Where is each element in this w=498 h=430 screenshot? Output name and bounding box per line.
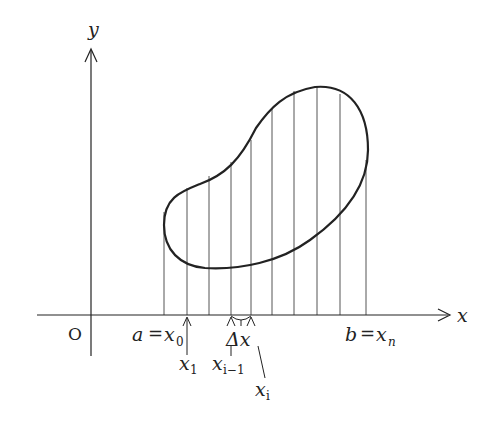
delta-x-brace	[231, 316, 251, 320]
xi-pointer	[258, 346, 265, 378]
label-a-eq: =	[148, 323, 163, 344]
label-xi-sub: i	[266, 389, 270, 403]
origin-label: O	[68, 324, 82, 344]
label-xim1: x	[212, 352, 223, 374]
label-x0-sub: 0	[176, 335, 184, 349]
integral-diagram: x y O a = x 0 x 1 Δx x i−1 x i b = x n	[0, 0, 498, 430]
label-a: a	[132, 323, 143, 345]
label-x1: x	[179, 352, 190, 374]
y-axis-label: y	[87, 18, 99, 40]
label-delta-x: Δx	[225, 328, 251, 350]
label-xn: x	[376, 323, 387, 345]
label-xim1-sub: i−1	[223, 363, 245, 377]
partition-lines	[164, 87, 366, 315]
label-b-eq: =	[360, 323, 375, 344]
label-b: b	[345, 323, 357, 345]
label-x0: x	[164, 323, 175, 345]
x-axis-label: x	[457, 304, 468, 326]
label-x1-sub: 1	[190, 363, 198, 377]
label-xn-sub: n	[388, 335, 396, 349]
label-xi: x	[255, 378, 266, 400]
region-boundary-curve	[164, 87, 368, 269]
